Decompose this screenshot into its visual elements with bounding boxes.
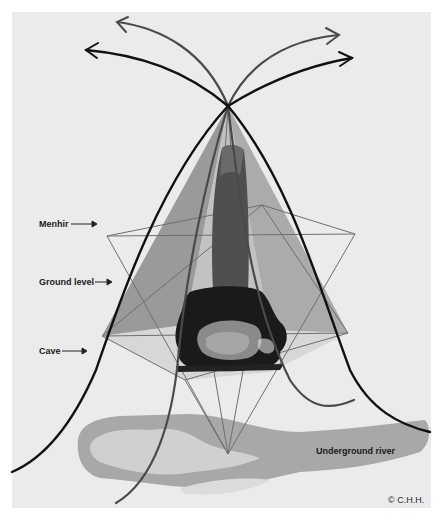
diagram-canvas: Menhir Ground level Cave Underground riv… xyxy=(0,0,443,520)
label-cave: Cave xyxy=(39,346,61,356)
diagram-illustration xyxy=(0,0,443,520)
label-underground-river: Underground river xyxy=(316,446,395,456)
copyright-notice: © C.H.H. xyxy=(388,495,424,505)
label-menhir: Menhir xyxy=(39,219,69,229)
arrow-heads-dark xyxy=(86,43,352,66)
label-ground-level: Ground level xyxy=(39,277,94,287)
